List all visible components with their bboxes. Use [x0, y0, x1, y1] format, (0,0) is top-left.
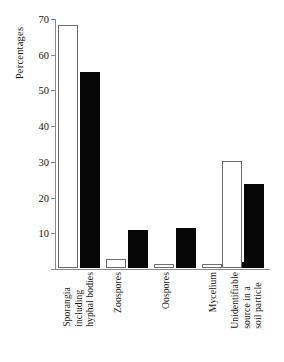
bar-filled-1[interactable] — [128, 230, 148, 268]
x-label-0-line-1: including — [73, 272, 85, 327]
bar-filled-0[interactable] — [80, 72, 100, 268]
bar-open-4[interactable] — [222, 161, 242, 268]
x-label-group-2: Oospores — [160, 272, 172, 309]
x-label-4-line-0: Unidentifiable — [229, 272, 241, 329]
x-label-4-line-1: source in a — [241, 272, 253, 329]
x-label-0-line-0: Sporangia — [61, 272, 73, 327]
y-tick-label-10: 10 — [39, 228, 50, 239]
bar-group-1 — [105, 18, 149, 268]
bar-filled-4[interactable] — [244, 184, 264, 268]
bar-open-0[interactable] — [58, 25, 78, 268]
bar-open-1[interactable] — [106, 259, 126, 268]
bar-open-3[interactable] — [202, 264, 222, 268]
x-label-3-line-0: Mycelium — [207, 272, 219, 312]
x-label-1-line-0: Zoospores — [112, 272, 124, 313]
y-tick-label-50: 50 — [39, 85, 50, 96]
y-tick-label-20: 20 — [39, 192, 50, 203]
x-label-group-0: Sporangia including hyphal bodies — [61, 272, 96, 327]
x-label-0-line-2: hyphal bodies — [84, 272, 96, 327]
bar-open-2[interactable] — [154, 264, 174, 268]
x-label-2-line-0: Oospores — [160, 272, 172, 309]
x-label-group-1: Zoospores — [112, 272, 124, 313]
y-axis-title: Percentages — [14, 0, 25, 108]
x-label-4-line-2: soil particle — [252, 272, 264, 329]
x-axis-line — [55, 269, 270, 270]
bar-group-2 — [153, 18, 197, 268]
y-tick-label-40: 40 — [39, 121, 50, 132]
y-tick-label-30: 30 — [39, 156, 50, 167]
y-tick-label-60: 60 — [39, 49, 50, 60]
bar-group-0 — [57, 18, 101, 268]
bar-filled-2[interactable] — [176, 228, 196, 268]
plot-area: 10 20 30 40 50 60 70 — [55, 19, 270, 269]
x-label-group-4: Unidentifiable source in a soil particle — [229, 272, 264, 329]
chart-figure: Percentages 10 20 30 40 50 — [0, 0, 284, 362]
y-tick-label-70: 70 — [39, 14, 50, 25]
y-axis-line — [55, 19, 56, 270]
x-axis-labels: Sporangia including hyphal bodies Zoospo… — [55, 272, 270, 362]
bar-group-4 — [221, 18, 265, 268]
x-label-group-3: Mycelium — [207, 272, 219, 312]
